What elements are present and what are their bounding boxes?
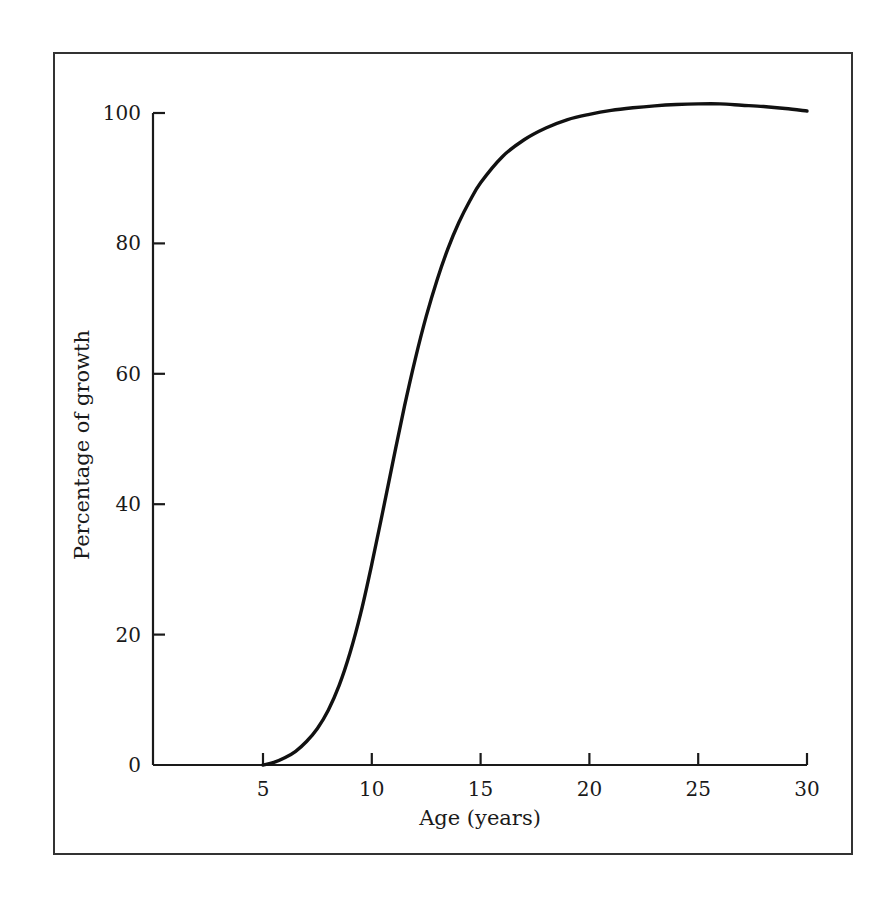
axis-lines — [153, 113, 807, 765]
x-tick-label: 15 — [468, 779, 493, 799]
x-tick-label: 5 — [257, 779, 270, 799]
y-axis-title: Percentage of growth — [70, 330, 94, 560]
x-tick-label: 25 — [685, 779, 710, 799]
y-tick-label: 100 — [0, 103, 141, 123]
y-tick-label: 0 — [0, 755, 141, 775]
y-tick-label: 20 — [0, 625, 141, 645]
figure-container: 51015202530 020406080100 Age (years) Per… — [0, 0, 896, 901]
x-tick-label: 20 — [577, 779, 602, 799]
x-tick-label: 10 — [359, 779, 384, 799]
x-axis-ticks — [263, 753, 807, 765]
x-axis-title: Age (years) — [419, 806, 541, 830]
growth-curve-line — [263, 104, 807, 765]
y-tick-label: 80 — [0, 233, 141, 253]
y-axis-ticks — [153, 113, 165, 635]
x-tick-label: 30 — [794, 779, 819, 799]
